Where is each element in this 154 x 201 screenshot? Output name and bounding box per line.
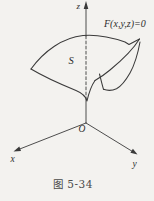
figure-caption: 图 5-34 (53, 178, 93, 190)
textbook-figure-5-34: z F(x,y,z)=0 S O x y 图 5-34 (0, 0, 154, 201)
z-axis-label: z (75, 1, 80, 11)
x-axis-label: x (9, 154, 15, 164)
y-axis-label: y (131, 159, 137, 169)
figure-background (0, 0, 154, 201)
origin-label: O (79, 124, 86, 134)
figure-canvas: z F(x,y,z)=0 S O x y 图 5-34 (0, 0, 154, 201)
surface-equation-label: F(x,y,z)=0 (103, 18, 146, 30)
surface-name-label: S (68, 55, 74, 66)
